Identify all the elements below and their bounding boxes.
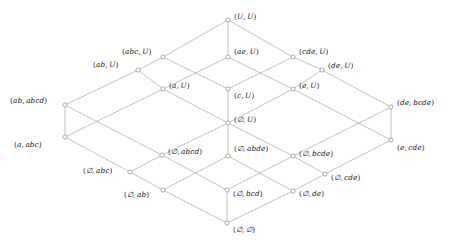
lattice-node-n_UU[interactable] <box>226 18 230 22</box>
lattice-node-n_ecde[interactable] <box>389 138 393 142</box>
lattice-node-n_emptyabcd[interactable] <box>160 153 164 157</box>
node-label-n_ecde: (e, cde) <box>397 144 425 151</box>
lattice-node-n_emptyab[interactable] <box>161 188 165 192</box>
lattice-edge <box>325 140 391 174</box>
lattice-node-n_aabc[interactable] <box>63 135 67 139</box>
lattice-node-n_emptycde[interactable] <box>323 172 327 176</box>
node-label-n_deU: (de, U) <box>328 62 353 69</box>
lattice-edge <box>163 89 228 123</box>
lattice-node-n_debcde[interactable] <box>389 105 393 109</box>
node-label-n_abU: (ab, U) <box>93 61 118 68</box>
lattice-node-n_cdeU[interactable] <box>291 55 295 59</box>
node-label-n_aeU: (ae, U) <box>234 48 259 55</box>
lattice-edge <box>163 20 228 57</box>
lattice-edge <box>293 156 325 174</box>
lattice-edge <box>163 190 227 223</box>
node-label-n_aU: (a, U) <box>169 82 190 89</box>
node-label-n_emptyab: (∅, ab) <box>124 191 149 198</box>
lattice-node-n_emptyde[interactable] <box>291 189 295 193</box>
node-label-n_cU: (c, U) <box>234 92 254 99</box>
lattice-edge <box>322 70 391 107</box>
lattice-diagram-canvas: (U, U)(abc, U)(ae, U)(cde, U)(ab, U)(de,… <box>0 0 455 247</box>
lattice-edge <box>162 155 227 190</box>
lattice-graph <box>0 0 455 247</box>
lattice-node-n_emptyU[interactable] <box>226 121 230 125</box>
node-label-n_UU: (U, U) <box>234 13 256 20</box>
lattice-edge <box>130 172 163 190</box>
lattice-edge <box>130 155 162 172</box>
lattice-node-n_ababcd[interactable] <box>63 103 67 107</box>
node-label-n_emptyabcd: (∅, abcd) <box>168 148 202 155</box>
lattice-node-n_emptyabc[interactable] <box>128 170 132 174</box>
node-label-n_emptyempty: (∅, ∅) <box>233 226 255 233</box>
lattice-node-n_deU[interactable] <box>320 68 324 72</box>
lattice-node-n_emptyempty[interactable] <box>225 221 229 225</box>
lattice-node-n_emptyabde[interactable] <box>226 154 230 158</box>
lattice-node-n_emptybcd[interactable] <box>225 188 229 192</box>
lattice-edge <box>293 57 322 70</box>
node-label-n_emptyabc: (∅, abc) <box>83 167 112 174</box>
lattice-node-n_eU[interactable] <box>291 87 295 91</box>
node-label-n_debcde: (de, bcde) <box>397 99 434 106</box>
node-label-n_ababcd: (ab, abcd) <box>10 97 47 104</box>
node-label-n_emptybcd: (∅, bcd) <box>233 190 263 197</box>
lattice-node-n_aU[interactable] <box>161 87 165 91</box>
node-label-n_eU: (e, U) <box>299 82 320 89</box>
node-label-n_abcU: (abc, U) <box>122 48 152 55</box>
node-label-n_emptyde: (∅, de) <box>299 190 324 197</box>
node-label-n_aabc: (a, abc) <box>14 141 42 148</box>
lattice-edge <box>65 70 138 105</box>
node-label-n_emptycde: (∅, cde) <box>331 174 360 181</box>
node-label-n_cdeU: (cde, U) <box>299 48 329 55</box>
lattice-node-n_aeU[interactable] <box>226 55 230 59</box>
lattice-node-n_cU[interactable] <box>226 87 230 91</box>
node-label-n_emptybcde: (∅, bcde) <box>299 150 333 157</box>
lattice-edge <box>138 57 163 70</box>
node-label-n_emptyabde: (∅, abde) <box>234 145 268 152</box>
lattice-node-n_abcU[interactable] <box>161 55 165 59</box>
node-label-n_emptyU: (∅, U) <box>234 116 256 123</box>
lattice-node-n_emptybcde[interactable] <box>291 154 295 158</box>
lattice-edge <box>65 89 163 137</box>
lattice-node-n_abU[interactable] <box>136 68 140 72</box>
lattice-edge <box>138 70 163 89</box>
